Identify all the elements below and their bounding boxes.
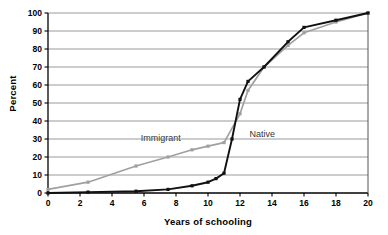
data-point-native [246,80,249,83]
data-point-native [166,188,169,191]
chart-figure: Percent Years of schooling 0102030405060… [0,0,388,235]
series-line-immigrant [48,13,368,189]
data-point-native [334,19,337,22]
data-point-immigrant [238,112,241,115]
data-point-immigrant [166,155,169,158]
data-point-immigrant [86,181,89,184]
data-point-immigrant [206,145,209,148]
data-point-native [238,98,241,101]
data-point-native [366,11,369,14]
data-point-immigrant [134,164,137,167]
data-point-native [206,181,209,184]
data-point-immigrant [46,188,49,191]
data-point-immigrant [302,31,305,34]
data-point-immigrant [222,141,225,144]
data-point-native [214,177,217,180]
data-point-native [86,191,89,194]
plot-canvas [0,0,388,235]
data-point-native [134,190,137,193]
data-point-native [262,65,265,68]
data-point-native [222,172,225,175]
data-point-native [46,191,49,194]
data-point-native [190,184,193,187]
data-point-native [286,40,289,43]
data-point-native [302,26,305,29]
data-point-immigrant [246,89,249,92]
data-point-immigrant [190,148,193,151]
data-point-native [230,137,233,140]
